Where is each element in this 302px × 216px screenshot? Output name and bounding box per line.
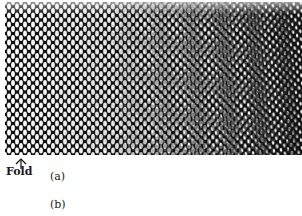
mesh-pattern-graphic xyxy=(5,2,302,155)
caption-a: (a) xyxy=(50,171,65,183)
figure: Fold (a) (b) xyxy=(0,0,302,216)
caption-b: (b) xyxy=(50,199,66,211)
moire-mesh-image xyxy=(5,2,302,155)
fold-label: Fold xyxy=(6,166,32,178)
